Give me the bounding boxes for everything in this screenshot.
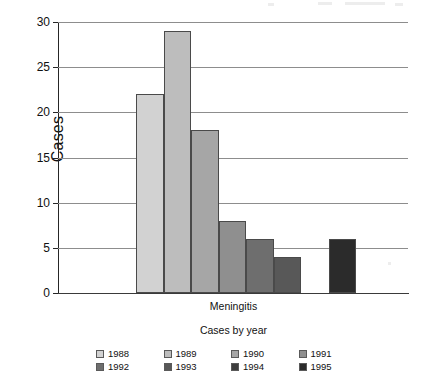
scan-artifact (395, 3, 403, 6)
legend-swatch-icon (96, 350, 104, 358)
bar-1991 (219, 221, 247, 293)
bar-1993 (274, 257, 302, 293)
legend-label: 1994 (243, 362, 264, 372)
legend-label: 1995 (311, 362, 332, 372)
bar-1989 (164, 31, 192, 293)
legend-swatch-icon (231, 363, 239, 371)
y-tick-mark (53, 293, 58, 294)
legend-swatch-icon (299, 363, 307, 371)
y-tick-label: 25 (37, 61, 50, 73)
legend-label: 1989 (176, 349, 197, 359)
bar-1995 (329, 239, 357, 293)
bar-series-group (58, 22, 408, 293)
legend-label: 1991 (311, 349, 332, 359)
y-tick-label: 0 (43, 287, 50, 299)
legend-swatch-icon (164, 350, 172, 358)
legend-item-1993[interactable]: 1993 (164, 362, 232, 372)
legend-row: 1992199319941995 (96, 360, 366, 373)
category-label: Meningitis (58, 300, 409, 312)
legend-label: 1988 (108, 349, 129, 359)
bar-1990 (191, 130, 219, 293)
y-tick-label: 10 (37, 197, 50, 209)
legend-label: 1990 (243, 349, 264, 359)
legend: 19881989199019911992199319941995 (96, 347, 366, 373)
y-tick-label: 5 (43, 242, 50, 254)
legend-label: 1993 (176, 362, 197, 372)
y-tick-label: 30 (37, 16, 50, 28)
bar-chart-figure: Cases 051015202530 Meningitis Cases by y… (0, 0, 422, 378)
legend-swatch-icon (299, 350, 307, 358)
legend-item-1994[interactable]: 1994 (231, 362, 299, 372)
legend-swatch-icon (96, 363, 104, 371)
legend-row: 1988198919901991 (96, 347, 366, 360)
plot-area: 051015202530 (58, 22, 408, 293)
legend-label: 1992 (108, 362, 129, 372)
scan-artifact (345, 2, 385, 5)
x-axis-label: Cases by year (58, 324, 409, 336)
legend-swatch-icon (231, 350, 239, 358)
y-tick-label: 20 (37, 106, 50, 118)
bar-1992 (246, 239, 274, 293)
legend-item-1989[interactable]: 1989 (164, 349, 232, 359)
bar-1988 (136, 94, 164, 293)
legend-item-1992[interactable]: 1992 (96, 362, 164, 372)
legend-item-1988[interactable]: 1988 (96, 349, 164, 359)
scan-artifact (318, 2, 332, 5)
x-axis-line (58, 293, 409, 294)
legend-item-1991[interactable]: 1991 (299, 349, 367, 359)
scan-artifact (268, 3, 274, 6)
legend-swatch-icon (164, 363, 172, 371)
y-tick-label: 15 (37, 152, 50, 164)
legend-item-1995[interactable]: 1995 (299, 362, 367, 372)
legend-item-1990[interactable]: 1990 (231, 349, 299, 359)
